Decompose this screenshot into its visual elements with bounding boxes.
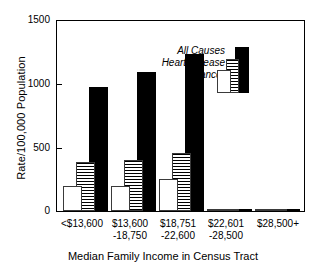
x-tick-label-1: <$13,600 (56, 218, 108, 230)
x-tick-label-3-line1: $18,751 (152, 218, 204, 230)
bar-cancer-3 (159, 179, 178, 211)
plot-inner: All Causes Heart Disease Cancer (57, 21, 304, 211)
bar-group-2 (111, 21, 158, 211)
x-tick-label-4-line2: -28,500 (200, 230, 252, 242)
bar-cancer-5 (255, 209, 274, 211)
y-tick-label-0: 0 (16, 206, 50, 216)
y-tick-label-500: 500 (16, 143, 50, 153)
y-tick-label-1500: 1500 (16, 15, 50, 25)
x-tick-label-2-line2: -18,750 (104, 230, 156, 242)
x-tick-label-3: $18,751 -22,600 (152, 218, 204, 241)
x-axis-title: Median Family Income in Census Tract (0, 250, 326, 262)
x-tick-label-5-line1: $28,500+ (249, 218, 307, 230)
bar-cancer-1 (63, 186, 82, 211)
y-tick-mark-1000 (57, 84, 62, 85)
plot-area: All Causes Heart Disease Cancer (56, 20, 305, 212)
bar-group-3 (159, 21, 206, 211)
y-tick-mark-500 (57, 148, 62, 149)
bar-cancer-2 (111, 186, 130, 211)
x-tick-label-2-line1: $13,600 (104, 218, 156, 230)
x-tick-label-3-line2: -22,600 (152, 230, 204, 242)
bar-group-5 (255, 21, 302, 211)
x-tick-label-5: $28,500+ (249, 218, 307, 230)
bar-group-4 (207, 21, 254, 211)
bar-cancer-4 (207, 209, 226, 211)
chart-figure: Rate/100,000 Population 1500 1000 500 0 (0, 0, 326, 269)
x-tick-label-4: $22,601 -28,500 (200, 218, 252, 241)
y-axis-title: Rate/100,000 Population (15, 28, 27, 208)
y-tick-label-1000: 1000 (16, 79, 50, 89)
x-tick-label-4-line1: $22,601 (200, 218, 252, 230)
x-tick-label-1-line1: <$13,600 (56, 218, 108, 230)
bar-group-1 (63, 21, 110, 211)
x-tick-label-2: $13,600 -18,750 (104, 218, 156, 241)
